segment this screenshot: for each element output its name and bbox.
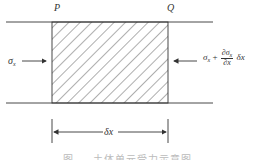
right-stress-formula: σx + ∂σx ∂x δx bbox=[203, 49, 245, 67]
figure-caption: 图 — 土体单元受力示意图 bbox=[0, 151, 255, 160]
sigma-subscript: x bbox=[13, 61, 16, 67]
element-diagram bbox=[0, 0, 255, 160]
partial-derivative-fraction: ∂σx ∂x bbox=[221, 49, 234, 67]
plus-sign: + bbox=[212, 52, 217, 62]
delta-x-term: δx bbox=[237, 52, 245, 62]
fraction-denominator: ∂x bbox=[223, 59, 231, 67]
sigma-subscript: x bbox=[207, 57, 210, 63]
fraction-numerator: ∂σ bbox=[222, 48, 230, 57]
left-stress-label: σx bbox=[8, 56, 16, 67]
width-dimension-label: δx bbox=[104, 127, 113, 137]
hatched-element bbox=[52, 22, 168, 103]
point-p-label: P bbox=[54, 3, 60, 13]
point-q-label: Q bbox=[167, 3, 174, 13]
